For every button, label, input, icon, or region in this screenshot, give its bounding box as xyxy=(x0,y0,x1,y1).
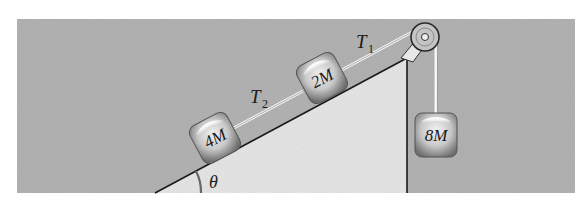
block-8m: 8M xyxy=(415,113,457,157)
pulley xyxy=(411,23,439,51)
pulley-hub xyxy=(422,34,429,41)
block-8m-label: 8M xyxy=(425,126,449,145)
svg-text:2: 2 xyxy=(262,97,268,111)
svg-text:T: T xyxy=(250,86,262,107)
svg-text:1: 1 xyxy=(368,42,374,56)
angle-label: θ xyxy=(209,172,218,192)
svg-text:T: T xyxy=(356,31,368,52)
diagram: θ 4M 2M 8M T 2 T 1 xyxy=(0,0,587,206)
